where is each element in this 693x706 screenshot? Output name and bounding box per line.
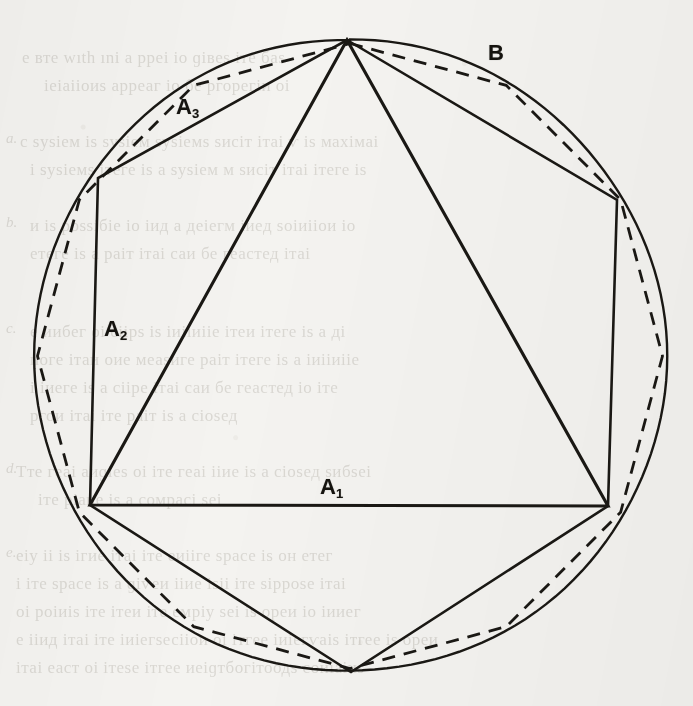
inscribed-polygons-figure	[0, 0, 693, 706]
circle-outline	[34, 39, 667, 670]
label-base: A	[176, 94, 192, 119]
inscribed-dodecagon-dashed	[38, 44, 663, 669]
label-subscript: 3	[192, 106, 199, 121]
figure-label-a3: A3	[176, 96, 199, 118]
figure-label-b: B	[488, 42, 504, 64]
scanned-page: е вте wıth ınі а рреі іо ɡівеѕ іте баѕіе…	[0, 0, 693, 706]
label-base: A	[104, 316, 120, 341]
inscribed-hexagon	[90, 40, 617, 672]
figure-label-a2: A2	[104, 318, 127, 340]
figure-label-a1: A1	[320, 476, 343, 498]
label-subscript: 2	[120, 328, 127, 343]
label-base: A	[320, 474, 336, 499]
label-subscript: 1	[336, 486, 343, 501]
